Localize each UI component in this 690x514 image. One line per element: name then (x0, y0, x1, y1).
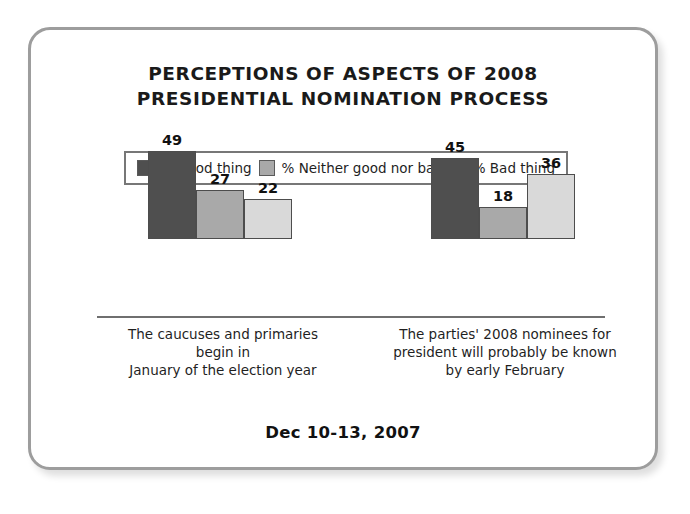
bar-value-1-0: 27 (196, 171, 244, 187)
bar-cell-0-0: 49 (148, 149, 196, 239)
category-label-0-line-1: The caucuses and primaries begin in (111, 325, 335, 361)
bar-2-1 (527, 174, 575, 239)
plot-area: 49 27 22 45 18 (31, 30, 655, 467)
category-label-1-line-2: president will probably be known (389, 343, 621, 361)
bar-value-2-1: 36 (527, 155, 575, 171)
bar-value-0-1: 45 (431, 139, 479, 155)
bar-1-0 (196, 190, 244, 239)
bar-1-1 (479, 207, 527, 239)
chart-card: PERCEPTIONS OF ASPECTS OF 2008 PRESIDENT… (28, 27, 658, 470)
bar-cell-0-1: 45 (431, 149, 479, 239)
category-label-1-line-1: The parties' 2008 nominees for (389, 325, 621, 343)
category-label-1: The parties' 2008 nominees for president… (389, 325, 621, 379)
x-axis-baseline (97, 316, 605, 318)
bar-value-2-0: 22 (244, 180, 292, 196)
bar-group-0: 49 27 22 (148, 149, 294, 239)
bar-group-0-bars: 49 27 22 (148, 149, 294, 239)
bar-group-1: 45 18 36 (431, 149, 577, 239)
bar-value-0-0: 49 (148, 132, 196, 148)
bar-2-0 (244, 199, 292, 239)
bar-cell-2-1: 36 (527, 149, 575, 239)
category-label-0-line-2: January of the election year (111, 361, 335, 379)
bar-cell-1-1: 18 (479, 149, 527, 239)
bar-0-1 (431, 158, 479, 239)
bar-group-1-bars: 45 18 36 (431, 149, 577, 239)
category-label-0: The caucuses and primaries begin in Janu… (111, 325, 335, 379)
category-label-1-line-3: by early February (389, 361, 621, 379)
bar-value-1-1: 18 (479, 188, 527, 204)
bar-cell-2-0: 22 (244, 149, 292, 239)
survey-date-footnote: Dec 10-13, 2007 (31, 423, 655, 442)
bar-0-0 (148, 151, 196, 239)
bar-cell-1-0: 27 (196, 149, 244, 239)
